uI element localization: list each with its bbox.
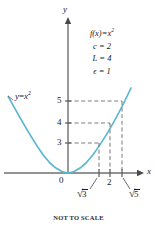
info-line-epsilon: ϵ = 1 [74, 66, 130, 76]
info-fn-exponent: 2 [111, 27, 114, 33]
y-tick-label-4: 4 [57, 118, 62, 127]
x-tick-label-sqrt5: √5 [129, 188, 140, 199]
x-tick-label-2: 2 [107, 178, 112, 187]
y-axis-arrowhead [65, 17, 71, 24]
curve-label-exponent: 2 [28, 90, 31, 96]
origin-label: 0 [59, 176, 64, 185]
y-tick-label-5: 5 [57, 96, 62, 105]
x-axis-arrowhead [137, 170, 144, 176]
radicand-3: 3 [82, 189, 88, 199]
info-fn-arg: (x) [92, 28, 101, 38]
info-line-function: f(x)=x2 [74, 28, 130, 38]
y-axis-label: y [63, 5, 67, 14]
info-line-c: c = 2 [74, 41, 130, 51]
radicand-5: 5 [134, 189, 140, 199]
x-tick-label-sqrt3: √3 [77, 188, 88, 199]
y-tick-label-3: 3 [57, 138, 62, 147]
curve-label: y=x2 [15, 92, 31, 101]
x-axis-label: x [147, 167, 151, 176]
info-annotation-block: f(x)=x2 c = 2 L = 4 ϵ = 1 [74, 28, 130, 78]
leader-line-sqrt3 [90, 178, 97, 189]
figure-caption: NOT TO SCALE [0, 214, 157, 221]
figure-container: y x 0 f(x)=x2 c = 2 L = 4 ϵ = 1 y=x2 5 4… [0, 0, 157, 230]
info-line-L: L = 4 [74, 53, 130, 63]
